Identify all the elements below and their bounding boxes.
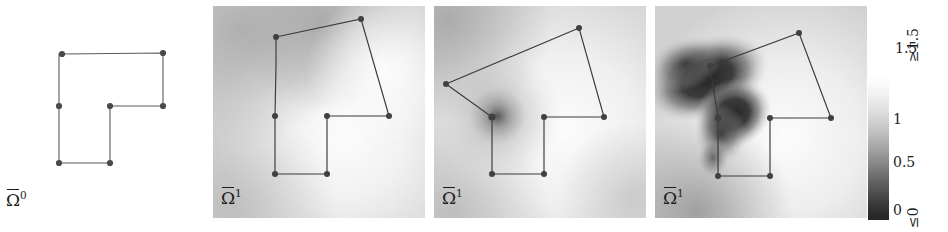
- omega-glyph: Ω: [663, 190, 677, 207]
- panel-deformed-2: Ω1: [434, 6, 646, 218]
- reference-vertices: [56, 50, 166, 166]
- panel-deformed-3: Ω1: [655, 6, 867, 218]
- colorbar-tick-0p5: 0.5: [893, 155, 915, 169]
- figure-root: Ω0: [0, 0, 948, 232]
- panel-label-deformed-1: Ω1: [221, 188, 242, 207]
- colorbar-tick-0: 0: [893, 203, 902, 217]
- panel-label-superscript: 1: [456, 187, 463, 199]
- panel-label-deformed-2: Ω1: [442, 188, 463, 207]
- panel-deformed-1: Ω1: [213, 6, 425, 218]
- panel-label-superscript: 1: [235, 187, 242, 199]
- panel-label-reference: Ω0: [6, 190, 27, 209]
- colorbar-tick-1p5: 1.5: [895, 41, 917, 55]
- panel-label-superscript: 1: [677, 187, 684, 199]
- deformed-2-polygon-svg: [434, 6, 646, 218]
- deformed-2-vertices: [443, 25, 607, 177]
- reference-polygon-svg: [0, 0, 205, 232]
- omega-glyph: Ω: [221, 190, 235, 207]
- colorbar-tick-1: 1: [893, 112, 902, 126]
- deformed-1-polygon-outline: [275, 19, 389, 174]
- deformed-1-polygon-svg: [213, 6, 425, 218]
- colorbar-label-under: ≤0: [906, 207, 920, 228]
- colorbar: ≥1.5 1.5 1 0.5 0 ≤0: [866, 0, 948, 232]
- panel-label-superscript: 0: [20, 189, 27, 201]
- deformed-3-polygon-svg: [655, 6, 867, 218]
- deformed-2-polygon-outline: [446, 28, 604, 174]
- panel-reference: Ω0: [0, 0, 205, 232]
- deformed-1-vertices: [272, 16, 392, 177]
- omega-glyph: Ω: [442, 190, 456, 207]
- colorbar-gradient: [868, 72, 889, 220]
- deformed-3-polygon-outline: [710, 33, 831, 176]
- omega-glyph: Ω: [6, 192, 20, 209]
- panel-label-deformed-3: Ω1: [663, 188, 684, 207]
